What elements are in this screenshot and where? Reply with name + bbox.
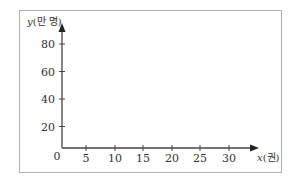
y-tick-label: 60: [41, 66, 55, 79]
y-tick-label: 20: [41, 121, 55, 134]
x-tick-label: 30: [222, 152, 236, 165]
y-tick-label: 40: [41, 93, 55, 106]
x-tick-label: 20: [165, 152, 179, 165]
y-tick-label: 80: [41, 38, 55, 51]
x-axis-arrow-icon: [250, 145, 259, 152]
x-tick-label: 10: [108, 152, 122, 165]
x-tick-label: 15: [136, 152, 150, 165]
y-axis-unit: (만 명): [33, 16, 62, 27]
origin-label: 0: [54, 150, 61, 163]
y-axis-label: y(만 명): [26, 16, 62, 27]
chart: 80 60 40 20 0 5 10 15 20 25 30 y(만 명) x(…: [0, 0, 295, 181]
x-tick-label: 5: [83, 152, 90, 165]
x-axis-label: x(권): [257, 152, 280, 163]
x-tick-label: 25: [193, 152, 207, 165]
x-axis-unit: (권): [263, 152, 280, 163]
